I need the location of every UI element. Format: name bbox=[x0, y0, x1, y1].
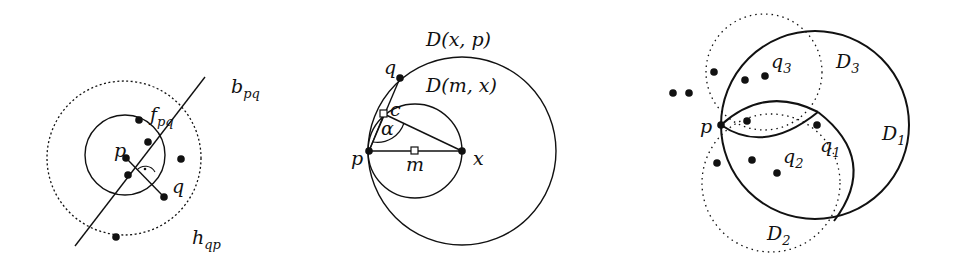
label-D1: D1 bbox=[881, 122, 906, 148]
diagram-canvas: bpq fpq p q hqp D(x, p) D(m, x) q c α p … bbox=[0, 0, 956, 273]
figure-a: bpq fpq p q hqp bbox=[47, 75, 260, 252]
label-q: q bbox=[384, 56, 396, 78]
marker-c bbox=[380, 110, 387, 117]
label-p: p bbox=[114, 139, 126, 161]
label-Dxp: D(x, p) bbox=[425, 28, 491, 50]
point bbox=[748, 156, 756, 164]
label-q2: q2 bbox=[783, 145, 803, 171]
bisector-line-bpq bbox=[75, 77, 205, 246]
point bbox=[713, 159, 721, 167]
point bbox=[177, 155, 185, 163]
point-p bbox=[717, 121, 725, 129]
label-p: p bbox=[700, 115, 712, 137]
point-fpq bbox=[135, 116, 143, 124]
point bbox=[669, 89, 677, 97]
point bbox=[710, 68, 718, 76]
point-q bbox=[160, 193, 168, 201]
figure-b: D(x, p) D(m, x) q c α p m x bbox=[351, 28, 556, 245]
point bbox=[124, 171, 132, 179]
point-q2 bbox=[773, 169, 781, 177]
label-q1: q1 bbox=[820, 134, 840, 160]
point-x bbox=[458, 147, 466, 155]
label-m: m bbox=[406, 153, 424, 175]
lens-lower-arc bbox=[721, 112, 818, 137]
point-q1 bbox=[813, 121, 821, 129]
label-q: q bbox=[172, 175, 184, 197]
arc-q1-down bbox=[818, 112, 854, 221]
figure-c: q3 D3 p q1 D1 q2 D2 bbox=[669, 14, 909, 252]
label-alpha: α bbox=[381, 117, 394, 139]
label-hqp: hqp bbox=[192, 226, 222, 252]
point bbox=[685, 89, 693, 97]
point-q bbox=[396, 74, 404, 82]
label-bpq: bpq bbox=[231, 75, 260, 101]
label-p: p bbox=[351, 147, 363, 169]
label-D2: D2 bbox=[766, 222, 791, 248]
label-q3: q3 bbox=[771, 50, 791, 76]
point bbox=[112, 233, 120, 241]
label-D3: D3 bbox=[835, 50, 860, 76]
label-x: x bbox=[473, 147, 484, 169]
point bbox=[741, 76, 749, 84]
right-angle-dot bbox=[144, 168, 147, 171]
point bbox=[144, 138, 152, 146]
label-Dmx: D(m, x) bbox=[425, 74, 497, 96]
point-q3 bbox=[761, 72, 769, 80]
point-p bbox=[365, 147, 373, 155]
point bbox=[743, 117, 751, 125]
